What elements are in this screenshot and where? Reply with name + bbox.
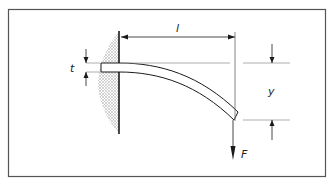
arrow-left-icon bbox=[121, 35, 128, 40]
length-label: l bbox=[176, 22, 179, 35]
arrow-right-icon bbox=[228, 35, 235, 40]
arrow-up-icon bbox=[84, 72, 89, 78]
arrow-up-icon bbox=[270, 120, 275, 126]
wall-hatch bbox=[98, 32, 119, 133]
arrow-down-icon bbox=[84, 57, 89, 63]
arrow-down-icon bbox=[270, 57, 275, 63]
force-label: F bbox=[241, 148, 248, 161]
thickness-dimension bbox=[86, 49, 100, 86]
cantilever-beam bbox=[101, 63, 238, 120]
thickness-label: t bbox=[70, 62, 75, 75]
figure-frame bbox=[9, 10, 326, 177]
deflection-label: y bbox=[267, 85, 275, 98]
cantilever-diagram: t l y F bbox=[0, 0, 328, 181]
force-arrow-icon bbox=[231, 146, 236, 160]
